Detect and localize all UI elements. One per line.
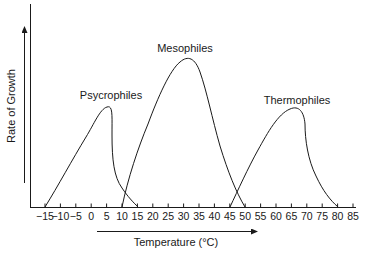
x-tick-label: 20 [147,210,159,222]
x-tick-label: 0 [88,210,94,222]
x-tick-label: 35 [193,210,205,222]
thermophiles-label: Thermophiles [264,94,331,106]
x-tick-label: 15 [132,210,144,222]
thermophiles-curve [230,108,338,207]
x-axis-label: Temperature (°C) [134,236,218,248]
psycrophiles-curve [45,107,138,207]
growth-rate-chart: −15−10−505101520253035404550556065707580… [0,0,373,253]
x-tick-label: 75 [316,210,328,222]
x-tick-label: 50 [239,210,251,222]
x-axis-tick-labels: −15−10−505101520253035404550556065707580… [36,210,359,222]
mesophiles-curve [122,58,245,207]
x-tick-label: 65 [286,210,298,222]
x-tick-label: 55 [255,210,267,222]
x-tick-label: 80 [332,210,344,222]
y-axis-label: Rate of Growth [5,69,17,143]
x-tick-label: 5 [104,210,110,222]
x-tick-label: 10 [116,210,128,222]
x-tick-label: 60 [270,210,282,222]
x-tick-label: 45 [224,210,236,222]
x-tick-label: 85 [347,210,359,222]
x-tick-label: 25 [162,210,174,222]
psycrophiles-label: Psycrophiles [80,89,143,101]
mesophiles-label: Mesophiles [157,42,213,54]
x-tick-label: 30 [178,210,190,222]
x-axis-ticks [45,204,353,208]
x-tick-label: 40 [209,210,221,222]
x-tick-label: 70 [301,210,313,222]
x-tick-label: −5 [70,210,82,222]
x-tick-label: −10 [51,210,69,222]
